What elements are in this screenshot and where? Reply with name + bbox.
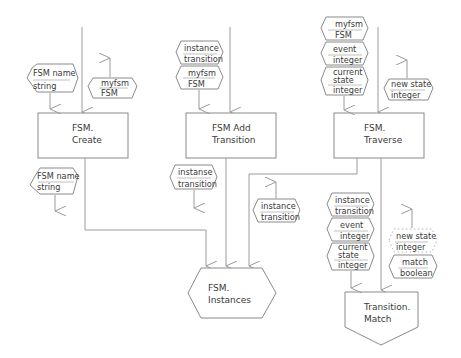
instances-hexagon — [188, 268, 276, 318]
param-type: boolean — [400, 268, 433, 278]
param-type: FSM — [188, 79, 205, 89]
param-name-2: state — [338, 250, 359, 260]
param-name: FSM name — [37, 171, 80, 181]
param-traverse-instance-below[interactable]: instance transition — [253, 182, 300, 222]
param-type: integer — [333, 55, 363, 65]
param-name: myfsm — [335, 19, 363, 29]
param-name: instance — [184, 43, 219, 53]
create-label-1: FSM. — [72, 123, 93, 133]
param-type: integer — [338, 260, 368, 270]
param-traverse-myfsm-in[interactable]: myfsm FSM — [321, 17, 368, 40]
match-label-2: Match — [364, 314, 391, 324]
param-create-fsm-name-in[interactable]: FSM name string — [27, 64, 78, 109]
param-type: FSM — [101, 88, 118, 98]
store-fsm-instances[interactable]: FSM. Instances — [188, 268, 276, 318]
fsm-diagram: FSM. Create FSM name string myfsm FSM FS… — [0, 0, 461, 358]
param-name: new state — [396, 231, 436, 241]
param-type: integer — [333, 85, 363, 95]
param-add-instance-in[interactable]: instance transition — [176, 41, 223, 64]
param-match-event-in[interactable]: event integer — [327, 218, 374, 241]
traverse-label-2: Traverse — [363, 135, 403, 145]
param-type: integer — [396, 242, 426, 252]
param-traverse-event-in[interactable]: event integer — [321, 42, 368, 65]
param-type: transition — [178, 179, 217, 189]
param-name: event — [340, 220, 364, 230]
param-name: instance — [335, 195, 370, 205]
add-label-2: Transition — [211, 135, 256, 145]
param-add-myfsm-in[interactable]: myfsm FSM — [176, 66, 223, 109]
param-name: myfsm — [101, 78, 129, 88]
param-type: string — [33, 81, 57, 91]
add-label-1: FSM Add — [212, 123, 251, 133]
param-name: new state — [391, 79, 431, 89]
param-type: integer — [340, 231, 370, 241]
param-type: string — [37, 182, 61, 192]
instances-label-1: FSM. — [208, 283, 229, 293]
param-name: FSM name — [33, 68, 76, 78]
param-name: myfsm — [188, 68, 216, 78]
param-name: instanse — [178, 167, 212, 177]
instances-label-2: Instances — [208, 295, 251, 305]
param-match-match-out[interactable]: match boolean — [389, 255, 437, 278]
param-name-2: state — [333, 75, 354, 85]
param-traverse-new-state-out[interactable]: new state integer — [384, 60, 433, 100]
param-create-fsm-name-below[interactable]: FSM name string — [30, 168, 80, 211]
process-transition-match[interactable]: Transition. Match — [345, 292, 418, 345]
param-type: transition — [184, 54, 223, 64]
param-type: transition — [335, 206, 374, 216]
param-create-myfsm-out[interactable]: myfsm FSM — [88, 58, 137, 98]
match-label-1: Transition. — [363, 302, 410, 312]
create-label-2: Create — [72, 135, 102, 145]
param-traverse-current-state-in[interactable]: current state integer — [321, 67, 368, 110]
param-type: transition — [261, 212, 300, 222]
param-name: match — [402, 257, 428, 267]
param-match-current-state-in[interactable]: current state integer — [327, 242, 374, 288]
param-name: event — [333, 44, 357, 54]
param-type: FSM — [335, 30, 352, 40]
param-name: instance — [261, 201, 296, 211]
param-match-instance-in[interactable]: instance transition — [327, 193, 374, 216]
param-add-instanse-below[interactable]: instanse transition — [170, 165, 217, 208]
param-match-new-state-out[interactable]: new state integer — [389, 209, 437, 252]
param-type: integer — [391, 90, 421, 100]
traverse-label-1: FSM. — [364, 123, 385, 133]
